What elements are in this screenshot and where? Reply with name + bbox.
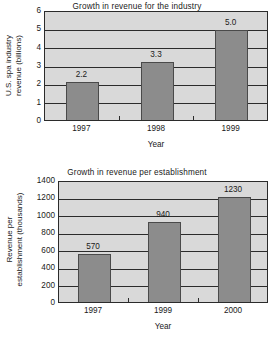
- bar[interactable]: [148, 222, 181, 303]
- y-axis-title-line-2: establishment (thousands): [14, 178, 24, 302]
- bar[interactable]: [141, 62, 174, 122]
- y-axis-tick-label: 0: [36, 117, 41, 125]
- bar-value-label: 2.2: [61, 71, 101, 79]
- y-axis-tick-label: 6: [36, 7, 41, 15]
- y-axis-tick-label: 0: [50, 299, 55, 307]
- y-axis-tick-label: 400: [41, 264, 55, 272]
- y-axis-tick-label: 1400: [37, 177, 55, 185]
- y-axis-tick-label: 3: [36, 62, 41, 70]
- x-axis-minor-tick: [193, 116, 194, 121]
- chart-top: Growth in revenue for the industry U.S. …: [0, 0, 274, 165]
- y-axis-tick-label: 600: [41, 247, 55, 255]
- chart-top-y-axis-title: U.S. spa industry revenue (billions): [4, 11, 23, 121]
- bar-value-label: 5.0: [211, 19, 251, 27]
- y-axis-tick-label: 1200: [37, 194, 55, 202]
- bar[interactable]: [218, 197, 251, 303]
- y-axis-tick-label: 5: [36, 25, 41, 33]
- y-axis-tick-label: 800: [41, 229, 55, 237]
- x-axis-tick-label: 1998: [131, 125, 181, 133]
- x-axis-minor-tick: [119, 116, 120, 121]
- y-axis-title-line-1: U.S. spa industry: [4, 11, 14, 121]
- x-axis-minor-tick: [198, 298, 199, 303]
- x-axis-tick-label: 1997: [68, 307, 118, 315]
- y-axis-tick-label: 200: [41, 282, 55, 290]
- y-axis-tick-label: 2: [36, 80, 41, 88]
- bar-value-label: 3.3: [136, 51, 176, 59]
- chart-bottom-x-axis-title: Year: [58, 323, 268, 331]
- bar[interactable]: [215, 30, 248, 121]
- x-axis-tick-label: 1997: [56, 125, 106, 133]
- y-axis-tick-label: 4: [36, 44, 41, 52]
- bar[interactable]: [78, 254, 111, 303]
- x-axis-minor-tick: [128, 298, 129, 303]
- bar-value-label: 1230: [213, 186, 253, 194]
- y-axis-title-line-1: Revenue per: [5, 178, 15, 302]
- x-axis-tick-label: 1999: [138, 307, 188, 315]
- bar-value-label: 940: [143, 211, 183, 219]
- bar-value-label: 570: [73, 243, 113, 251]
- figure-container: Growth in revenue for the industry U.S. …: [0, 0, 274, 339]
- y-axis-tick-label: 1000: [37, 212, 55, 220]
- chart-bottom: Growth in revenue per establishment Reve…: [0, 165, 274, 339]
- x-axis-tick-label: 2000: [208, 307, 258, 315]
- chart-bottom-y-axis-title: Revenue per establishment (thousands): [5, 178, 24, 302]
- y-axis-title-line-2: revenue (billions): [13, 11, 23, 121]
- x-axis-tick-label: 1999: [206, 125, 256, 133]
- y-axis-tick-label: 1: [36, 99, 41, 107]
- bar[interactable]: [66, 82, 99, 121]
- chart-top-x-axis-title: Year: [44, 141, 268, 149]
